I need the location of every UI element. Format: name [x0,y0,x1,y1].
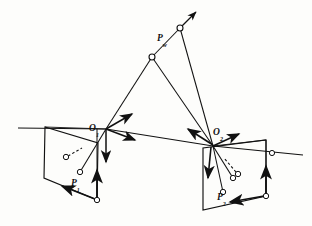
label-left-center-sub: 1 [96,132,99,138]
label-right-image-point-sub: 2 [223,201,226,207]
baseline-middle-segment [106,129,213,146]
label-right-center-base: O [213,127,220,137]
label-left-center: O1 [89,118,99,136]
label-world-point: Pw [157,28,167,46]
ray-o1-to-midnode [106,57,152,129]
mid-node [149,54,155,60]
left-aux-point [63,154,68,159]
stereo-geometry-svg [0,0,312,226]
left-dashed-link [68,148,82,156]
right-camera-group [188,129,269,202]
baseline-right-node [269,150,274,155]
baseline-right-segment [213,146,303,155]
left-axis-y-arrow [106,129,135,140]
label-right-center: O2 [213,122,223,140]
right-bottom-arrow [230,196,264,202]
label-right-image-point: P2 [217,187,226,205]
right-aux-point [235,171,240,176]
world-point-node [177,25,183,31]
ray-o2-to-midnode [152,57,213,146]
ray-o2-to-pw [180,28,213,146]
right-dashed-link [224,158,236,172]
figure-canvas: Pw O1 O2 P1 P2 [0,0,312,226]
label-right-center-sub: 2 [220,136,223,142]
label-left-image-point-sub: 1 [77,187,80,193]
label-left-image-point-base: P [71,178,77,188]
label-left-image-point: P1 [71,173,80,191]
label-left-center-base: O [89,123,96,133]
right-axis-z-arrow [208,147,211,178]
label-right-image-point-base: P [217,192,223,202]
right-projection-ray [213,146,223,192]
right-aux-point-2 [230,175,235,180]
label-world-point-base: P [157,33,163,43]
left-axis-x-arrow [106,114,132,129]
right-plane-corner-node [263,193,268,198]
label-world-point-sub: w [163,42,167,48]
left-plane-corner-node [94,197,99,202]
